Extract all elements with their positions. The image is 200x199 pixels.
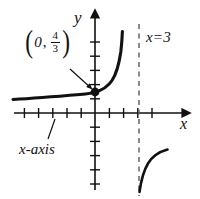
fraction-denominator: 3 [51,43,61,55]
x-axis-label: x [180,116,187,132]
x-axis-caption: x-axis [19,142,55,157]
point-coordinate-label: (0, 4 3 ) [24,30,71,55]
open-paren: ( [25,30,33,55]
fraction-numerator: 4 [51,30,61,42]
asymptote-equals-sign: = [153,29,163,45]
asymptote-equation-label: x=3 [146,30,171,45]
point-x-value: 0 [34,35,43,50]
coordinate-comma: , [43,35,50,50]
point-y-fraction: 4 3 [51,30,61,54]
x-axis-caption-leader-line [48,119,55,139]
asymptote-value: 3 [163,29,171,45]
asymptote-variable: x [146,29,153,45]
y-axis-label: y [74,9,82,26]
point-leader-line [70,69,91,88]
close-paren: ) [62,30,70,55]
curve-right-branch [140,150,168,193]
math-graph-figure: y x x=3 x-axis (0, 4 3 ) [0,0,200,199]
